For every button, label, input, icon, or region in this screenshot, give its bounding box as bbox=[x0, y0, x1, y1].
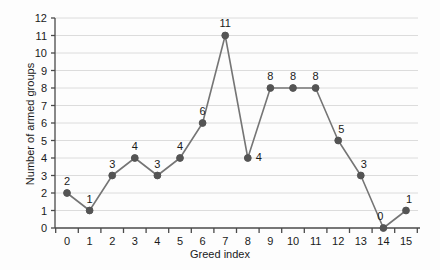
data-point-label: 5 bbox=[338, 123, 344, 135]
data-point-label: 4 bbox=[177, 140, 183, 152]
data-point-marker bbox=[222, 32, 229, 39]
y-tick-label: 8 bbox=[41, 82, 47, 94]
y-tick-label: 10 bbox=[35, 47, 47, 59]
data-point-marker bbox=[357, 172, 364, 179]
x-tick-label: 2 bbox=[109, 235, 115, 247]
data-point-label: 8 bbox=[313, 70, 319, 82]
x-tick-label: 6 bbox=[200, 235, 206, 247]
x-tick-label: 11 bbox=[310, 235, 321, 247]
data-point-marker bbox=[335, 137, 342, 144]
y-tick-label: 12 bbox=[35, 12, 47, 24]
data-point-label: 6 bbox=[200, 105, 206, 117]
data-point-label: 8 bbox=[290, 70, 296, 82]
series-line bbox=[67, 36, 406, 229]
y-axis: 0123456789101112 bbox=[35, 12, 55, 234]
y-tick-label: 7 bbox=[41, 100, 47, 112]
x-tick-label: 9 bbox=[267, 235, 273, 247]
data-point-label: 4 bbox=[132, 140, 138, 152]
data-point-marker bbox=[199, 120, 206, 127]
y-tick-label: 3 bbox=[41, 170, 47, 182]
series-markers bbox=[64, 32, 410, 231]
y-tick-label: 4 bbox=[41, 152, 47, 164]
x-tick-label: 15 bbox=[400, 235, 412, 247]
x-tick-label: 13 bbox=[355, 235, 367, 247]
data-point-label: 3 bbox=[154, 158, 160, 170]
y-tick-label: 5 bbox=[41, 135, 47, 147]
data-point-marker bbox=[64, 190, 71, 197]
data-point-label: 3 bbox=[361, 158, 367, 170]
data-point-marker bbox=[131, 155, 138, 162]
x-tick-label: 14 bbox=[377, 235, 389, 247]
data-point-label: 3 bbox=[109, 158, 115, 170]
data-point-marker bbox=[380, 225, 387, 232]
chart-canvas: 0123456789101112012345678910111213141521… bbox=[0, 0, 440, 270]
y-tick-label: 9 bbox=[41, 65, 47, 77]
x-tick-label: 3 bbox=[132, 235, 138, 247]
y-tick-label: 2 bbox=[41, 187, 47, 199]
data-point-marker bbox=[290, 85, 297, 92]
data-point-marker bbox=[109, 172, 116, 179]
x-tick-label: 10 bbox=[287, 235, 299, 247]
data-point-marker bbox=[86, 207, 93, 214]
line-chart-figure: 0123456789101112012345678910111213141521… bbox=[0, 0, 440, 270]
x-tick-label: 7 bbox=[222, 235, 228, 247]
data-point-label: 4 bbox=[256, 151, 262, 163]
data-point-marker bbox=[177, 155, 184, 162]
data-point-label: 1 bbox=[87, 193, 93, 205]
data-point-marker bbox=[267, 85, 274, 92]
y-tick-label: 6 bbox=[41, 117, 47, 129]
x-axis-title: Greed index bbox=[0, 248, 440, 260]
y-tick-label: 11 bbox=[36, 30, 47, 42]
data-point-marker bbox=[244, 155, 251, 162]
data-point-marker bbox=[154, 172, 161, 179]
x-tick-label: 5 bbox=[177, 235, 183, 247]
x-tick-label: 12 bbox=[332, 235, 344, 247]
data-point-label: 2 bbox=[64, 175, 70, 187]
data-point-label: 0 bbox=[377, 210, 383, 222]
x-tick-label: 8 bbox=[245, 235, 251, 247]
data-point-label: 1 bbox=[406, 193, 412, 205]
x-axis: 0123456789101112131415 bbox=[55, 228, 420, 247]
data-point-label: 8 bbox=[267, 70, 273, 82]
data-point-marker bbox=[312, 85, 319, 92]
data-labels: 21343461148885301 bbox=[64, 17, 412, 223]
x-tick-label: 4 bbox=[154, 235, 160, 247]
x-tick-label: 0 bbox=[64, 235, 70, 247]
y-tick-label: 0 bbox=[41, 222, 47, 234]
data-point-marker bbox=[403, 207, 410, 214]
x-tick-label: 1 bbox=[87, 235, 93, 247]
data-point-label: 11 bbox=[219, 17, 230, 29]
y-tick-label: 1 bbox=[41, 205, 47, 217]
y-axis-title: Number of armed groups bbox=[24, 44, 36, 204]
